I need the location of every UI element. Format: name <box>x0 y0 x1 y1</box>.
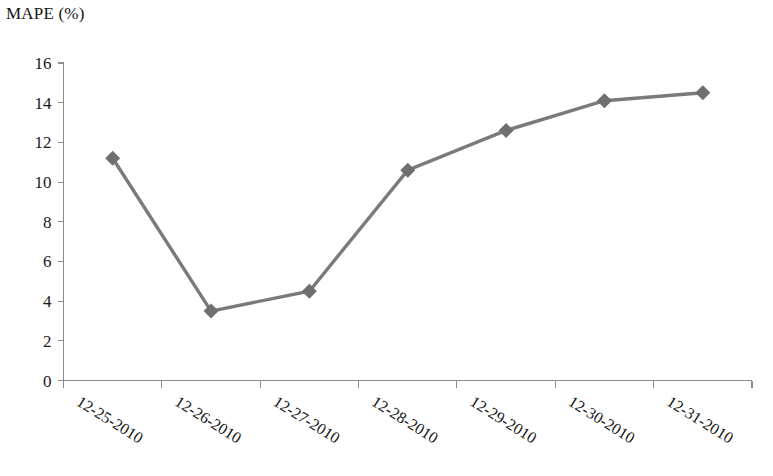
y-axis-tick-label: 2 <box>43 332 52 351</box>
y-axis-tick-label: 12 <box>35 133 52 152</box>
series-markers <box>105 85 710 318</box>
y-axis-tick-label: 0 <box>43 372 52 391</box>
x-axis-tick-label: 12-31-2010 <box>664 393 736 447</box>
x-axis-tick-label: 12-25-2010 <box>74 393 146 447</box>
x-axis-tick-label: 12-30-2010 <box>566 393 638 447</box>
x-axis-tick-label: 12-28-2010 <box>369 393 441 447</box>
series-line-mape <box>113 93 703 311</box>
y-axis: 0246810121416 <box>35 54 64 391</box>
data-series-group <box>105 85 710 318</box>
y-axis-ticks <box>58 63 64 381</box>
x-axis-tick-label: 12-29-2010 <box>467 393 539 447</box>
x-axis-tick-labels: 12-25-201012-26-201012-27-201012-28-2010… <box>74 393 736 447</box>
x-axis-tick-label: 12-26-2010 <box>172 393 244 447</box>
y-axis-tick-label: 16 <box>35 54 52 73</box>
y-axis-tick-label: 8 <box>43 213 52 232</box>
y-axis-tick-labels: 0246810121416 <box>35 54 53 391</box>
data-point-marker <box>695 85 710 100</box>
chart-plot-area: 0246810121416 12-25-201012-26-201012-27-… <box>0 0 773 476</box>
x-axis-ticks <box>64 381 753 388</box>
x-axis: 12-25-201012-26-201012-27-201012-28-2010… <box>63 381 752 447</box>
chart-container: MAPE (%) 0246810121416 12-25-201012-26-2… <box>0 0 773 476</box>
data-point-marker <box>499 123 514 138</box>
y-axis-tick-label: 4 <box>43 292 52 311</box>
data-point-marker <box>597 93 612 108</box>
y-axis-tick-label: 6 <box>43 252 52 271</box>
x-axis-tick-label: 12-27-2010 <box>271 393 343 447</box>
y-axis-tick-label: 10 <box>35 173 52 192</box>
y-axis-tick-label: 14 <box>35 94 53 113</box>
